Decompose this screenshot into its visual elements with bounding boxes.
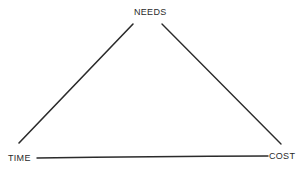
edge-time-cost bbox=[37, 156, 268, 158]
triangle-diagram: NEEDS TIME COST bbox=[0, 0, 306, 173]
vertex-label-cost: COST bbox=[269, 151, 295, 161]
vertex-label-needs: NEEDS bbox=[134, 7, 167, 17]
edge-time-needs bbox=[19, 24, 133, 143]
vertex-label-time: TIME bbox=[8, 153, 31, 163]
edge-needs-cost bbox=[162, 24, 281, 144]
triangle-lines bbox=[0, 0, 306, 173]
